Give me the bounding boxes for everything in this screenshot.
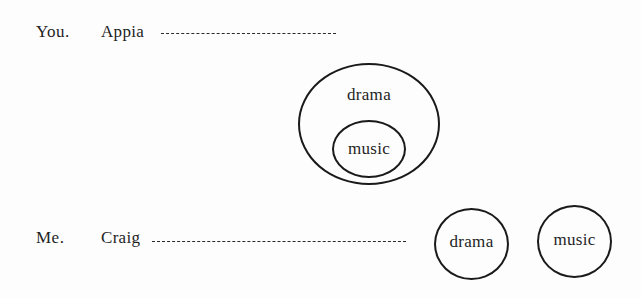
circle-label-music: music: [537, 230, 612, 250]
connector-line-bottom: [152, 241, 406, 242]
row-name-craig: Craig: [101, 228, 140, 248]
circle-label-drama: drama: [434, 232, 509, 252]
inner-circle-label-music: music: [332, 139, 406, 159]
row-speaker-me: Me.: [36, 228, 64, 248]
connector-line-top: [161, 33, 336, 34]
row-name-appia: Appia: [101, 22, 144, 42]
diagram-canvas: You. Appia drama music Me. Craig drama m…: [0, 0, 641, 298]
row-speaker-you: You.: [36, 22, 70, 42]
outer-circle-label-drama: drama: [298, 85, 440, 105]
